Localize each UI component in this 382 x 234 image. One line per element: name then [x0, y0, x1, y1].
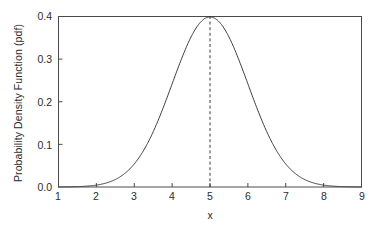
pdf-chart-figure: Probability Density Function (pdf) 0.4 0…	[0, 0, 382, 234]
y-axis-ticks	[59, 59, 63, 144]
plot-area	[0, 0, 382, 234]
